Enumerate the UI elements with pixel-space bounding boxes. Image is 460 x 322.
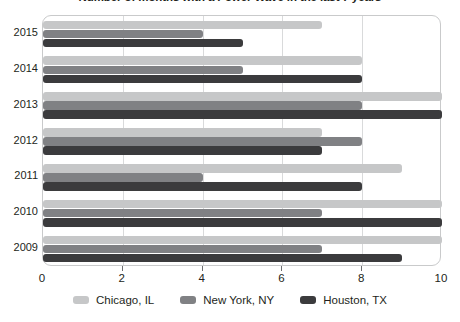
x-axis: 0246810 [42,266,441,288]
y-axis: 2015201420132012201120102009 [0,15,38,266]
bar-houston-2012 [43,146,322,155]
bar-new-york-2012 [43,137,362,146]
y-axis-label-2015: 2015 [2,27,38,38]
bar-chicago-2010 [43,200,442,209]
bar-group-2009 [43,231,440,267]
bar-houston-2013 [43,110,442,119]
bar-chicago-2011 [43,164,402,173]
x-tick-mark [361,266,362,271]
y-axis-label-2011: 2011 [2,170,38,181]
bar-group-2013 [43,88,440,124]
legend-item-new-york[interactable]: New York, NY [180,294,274,306]
legend-label: Houston, TX [323,294,387,306]
x-tick-mark [281,266,282,271]
bar-group-2015 [43,16,440,52]
bar-new-york-2010 [43,209,322,218]
y-axis-label-2014: 2014 [2,63,38,74]
bar-chicago-2013 [43,92,442,101]
legend-label: Chicago, IL [96,294,154,306]
chart-title: Number of months with a Power Wave in th… [0,0,460,3]
y-axis-label-2010: 2010 [2,206,38,217]
x-axis-label-6: 6 [278,272,284,284]
bar-chicago-2009 [43,236,442,245]
bar-houston-2010 [43,218,442,227]
y-axis-label-2009: 2009 [2,242,38,253]
bar-new-york-2015 [43,30,203,39]
y-axis-label-2013: 2013 [2,99,38,110]
bar-chart: Number of months with a Power Wave in th… [0,0,460,322]
bar-chicago-2012 [43,128,322,137]
bar-new-york-2014 [43,66,243,75]
bar-new-york-2009 [43,245,322,254]
legend-label: New York, NY [203,294,274,306]
bar-chicago-2015 [43,21,322,30]
x-axis-label-0: 0 [39,272,45,284]
bar-new-york-2013 [43,101,362,110]
bar-group-2012 [43,124,440,160]
y-axis-label-2012: 2012 [2,135,38,146]
bar-houston-2015 [43,39,243,48]
bar-group-2010 [43,195,440,231]
x-axis-label-4: 4 [198,272,204,284]
bar-new-york-2011 [43,173,203,182]
bar-group-2011 [43,159,440,195]
legend-item-houston[interactable]: Houston, TX [300,294,387,306]
x-axis-label-10: 10 [435,272,448,284]
legend-swatch-icon [300,296,316,304]
x-tick-mark [202,266,203,271]
x-tick-mark [122,266,123,271]
legend-swatch-icon [73,296,89,304]
bar-houston-2014 [43,75,362,84]
bar-chicago-2014 [43,56,362,65]
x-axis-label-2: 2 [119,272,125,284]
x-axis-label-8: 8 [358,272,364,284]
bar-houston-2011 [43,182,362,191]
legend-item-chicago[interactable]: Chicago, IL [73,294,154,306]
bar-group-2014 [43,52,440,88]
legend-swatch-icon [180,296,196,304]
chart-legend: Chicago, ILNew York, NYHouston, TX [0,294,460,306]
bar-houston-2009 [43,254,402,263]
plot-area [42,15,441,266]
